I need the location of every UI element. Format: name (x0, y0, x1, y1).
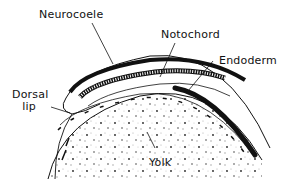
label-endoderm: Endoderm (219, 55, 277, 66)
label-notochord: Notochord (161, 29, 220, 40)
label-neurocoele: Neurocoele (39, 9, 103, 20)
dorsal-lip-fold (63, 98, 100, 114)
label-dorsal-lip-line2: lip (12, 101, 46, 113)
label-yolk: Yolk (149, 157, 171, 168)
leader-dorsal-lip (51, 107, 70, 113)
label-dorsal-lip: Dorsal lip (12, 89, 46, 113)
leader-neurocoele (92, 23, 113, 64)
